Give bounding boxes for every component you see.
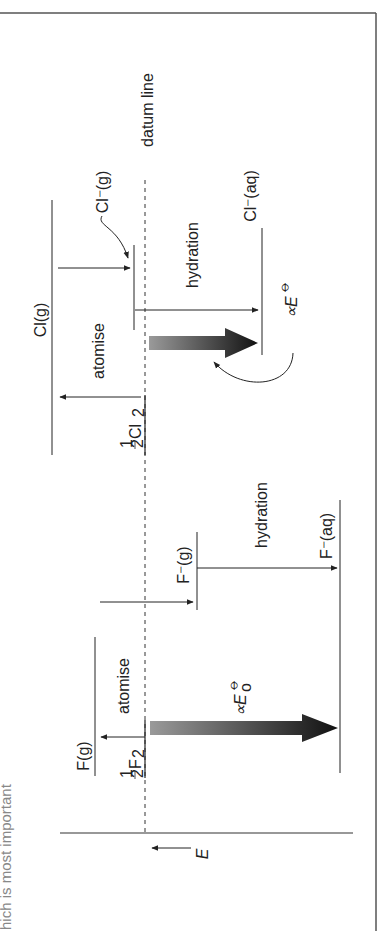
f-aq-label: F⁻(aq) [318,513,335,559]
f-atomise-label: atomise [115,658,132,714]
cl-aq-label: Cl⁻(aq) [242,170,259,222]
fluorine-cycle: F(g) 1 2 F 2 atomise F⁻(g) F⁻(aq) hydrat… [75,482,340,779]
cl-potential-arrow [149,328,258,358]
f-potential-arrow [150,714,338,742]
f-g-label: F(g) [75,741,92,770]
cl-hydration-label: hydration [184,222,201,288]
svg-text:2: 2 [129,769,146,778]
caption-fragment: hich is most important [0,783,14,930]
frame-border [0,13,376,931]
f-hydration-label: hydration [253,482,270,548]
cl-g-label: Cl(g) [32,303,49,338]
svg-text:F: F [127,759,144,769]
svg-text:2: 2 [129,439,146,448]
cl-potential-label: ∝E ⦵ [274,281,300,318]
svg-text:Cl: Cl [127,424,144,439]
half-cl2-label: 1 2 Cl 2 [118,408,147,449]
svg-text:2: 2 [130,408,147,417]
half-f2-label: 1 2 F 2 [118,749,147,779]
datum-line-label: datum line [139,73,156,147]
energy-level-diagram: hich is most important datum line Cl(g) … [0,0,388,931]
svg-text:o: o [237,683,254,692]
svg-text:⦵: ⦵ [274,281,291,294]
energy-axis-label: E [194,848,211,859]
svg-text:2: 2 [130,749,147,758]
cl-atomise-label: atomise [90,323,107,379]
chlorine-cycle: Cl(g) 1 2 Cl 2 atomise Cl⁻(g) Cl⁻(aq) hy… [32,170,300,455]
cl-ion-g-label: Cl⁻(g) [94,171,111,214]
f-potential-label: ∝E ⦵ o [223,679,254,716]
svg-text:∝E: ∝E [283,296,300,318]
svg-text:∝E: ∝E [232,694,249,716]
cl-ion-g-pointer [101,216,128,258]
f-ion-g-label: F⁻(g) [175,546,192,583]
